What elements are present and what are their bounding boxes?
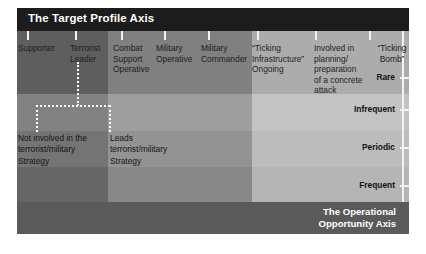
strategy-note-not-involved: Not involved in the terrorist/military S… [18,133,106,167]
profile-label-ticking-infrastructure: “Ticking Infrastructure” Ongoing [252,43,314,75]
axis-tick [315,31,317,40]
axis-tick [400,185,409,187]
axis-tick [27,31,29,40]
operational-opportunity-axis-title: The Operational Opportunity Axis [319,206,396,230]
row-band-infrequent [17,94,409,131]
axis-tick [369,31,371,40]
axis-tick [121,31,123,40]
axis-tick [400,77,409,79]
connector-stem-vertical [77,62,79,106]
axis-tick [75,31,77,40]
axis-tick [208,31,210,40]
frequency-label-periodic: Periodic [362,142,395,152]
profile-label-involved-in-planning: Involved in planning/ preparation of a c… [314,43,374,96]
profile-label-ticking-bomb: “Ticking Bomb” [372,43,409,64]
connector-branch-left [36,105,38,132]
header-bar: The Target Profile Axis [17,8,409,31]
axis-tick [257,31,259,40]
footer-bar: The Operational Opportunity Axis [17,202,409,234]
target-profile-axis-ticks [17,31,409,41]
profile-label-supporter: Supporter [18,43,70,54]
profile-label-military-commander: Military Commander [201,43,253,64]
strategy-note-leads: Leads terrorist/military Strategy [110,133,200,167]
frequency-label-rare: Rare [376,72,395,82]
profile-label-terrorist-leader: Terrorist Leader [70,43,118,64]
row-band-frequent [17,167,409,202]
frequency-label-infrequent: Infrequent [354,104,395,114]
profile-label-military-operative: Military Operative [156,43,201,64]
target-profile-matrix-figure: The Target Profile Axis Supporter Terror… [17,8,409,234]
axis-tick [400,147,409,149]
axis-tick [400,109,409,111]
page-title: The Target Profile Axis [28,12,154,24]
axis-tick [164,31,166,40]
connector-branch-right [109,105,111,132]
connector-crossbar [36,105,110,107]
frequency-label-frequent: Frequent [359,180,395,190]
profile-label-combat-support-operative: Combat Support Operative [113,43,157,75]
